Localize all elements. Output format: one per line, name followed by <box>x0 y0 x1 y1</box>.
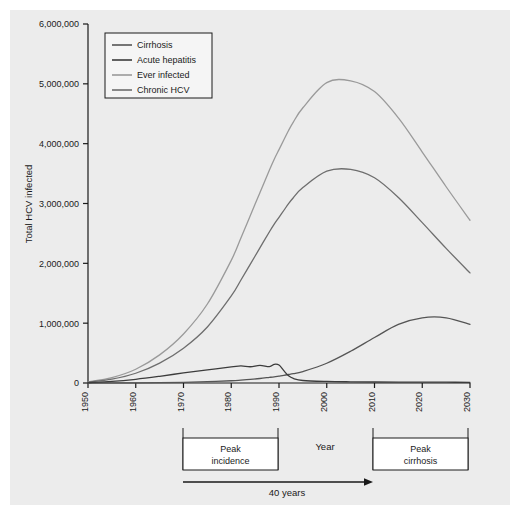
y-tick-label: 6,000,000 <box>39 19 79 29</box>
x-tick-labels: 195019601970198019902000201020202030 <box>80 392 472 412</box>
y-tick-label: 1,000,000 <box>39 319 79 329</box>
y-tick-label: 3,000,000 <box>39 199 79 209</box>
x-tick-label: 1960 <box>128 392 138 412</box>
y-tick-label: 4,000,000 <box>39 139 79 149</box>
peak-incidence-label-line1: Peak <box>220 444 241 454</box>
span-arrow-head <box>364 478 373 486</box>
figure-caption <box>8 507 512 518</box>
chart-series-group <box>88 79 470 383</box>
x-tick-label: 1950 <box>80 392 90 412</box>
x-tick-label: 1990 <box>271 392 281 412</box>
x-tick-label: 2000 <box>319 392 329 412</box>
legend-label-acute-hepatitis: Acute hepatitis <box>137 55 197 65</box>
legend-label-chronic-hcv: Chronic HCV <box>137 85 190 95</box>
legend-label-cirrhosis: Cirrhosis <box>137 40 173 50</box>
hcv-line-chart: 01,000,0002,000,0003,000,0004,000,0005,0… <box>0 0 520 520</box>
series-line-chronic-hcv <box>88 169 470 382</box>
y-axis-title: Total HCV infected <box>23 165 34 244</box>
x-tick-label: 2010 <box>367 392 377 412</box>
x-tick-label: 1970 <box>176 392 186 412</box>
y-tick-label: 2,000,000 <box>39 259 79 269</box>
x-axis-title: Year <box>315 441 334 452</box>
x-tick-label: 2020 <box>414 392 424 412</box>
x-tick-label: 2030 <box>462 392 472 412</box>
series-line-acute-hepatitis <box>88 364 470 382</box>
y-tick-label: 0 <box>74 378 79 388</box>
legend-label-ever-infected: Ever infected <box>137 70 190 80</box>
x-tick-marks <box>88 383 470 388</box>
y-tick-label: 5,000,000 <box>39 79 79 89</box>
chart-legend: CirrhosisAcute hepatitisEver infectedChr… <box>105 33 212 98</box>
peak-cirrhosis-annotation: Peak cirrhosis <box>373 428 468 470</box>
span-arrow-label: 40 years <box>269 487 306 498</box>
peak-cirrhosis-label-line1: Peak <box>410 444 431 454</box>
x-tick-label: 1980 <box>223 392 233 412</box>
peak-cirrhosis-label-line2: cirrhosis <box>404 456 438 466</box>
y-tick-marks <box>83 24 88 383</box>
series-line-ever-infected <box>88 79 470 381</box>
figure-root: 01,000,0002,000,0003,000,0004,000,0005,0… <box>0 0 520 520</box>
peak-incidence-annotation: Peak incidence <box>183 428 278 470</box>
span-arrow-annotation: 40 years <box>183 478 373 498</box>
y-tick-labels: 01,000,0002,000,0003,000,0004,000,0005,0… <box>39 19 79 388</box>
peak-incidence-label-line2: incidence <box>211 456 249 466</box>
series-line-cirrhosis <box>88 317 470 383</box>
